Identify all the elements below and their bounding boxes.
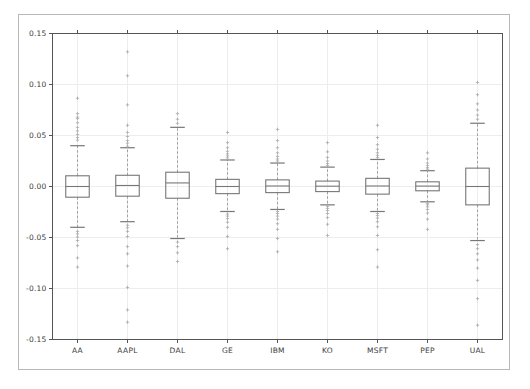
figure-canvas: 0.150.100.050.00-0.05-0.10-0.15 AAAAPLDA… — [0, 0, 530, 389]
y-axis-tick-label: 0.00 — [3, 182, 47, 191]
outlier-marker — [376, 248, 379, 251]
outlier-marker — [376, 216, 379, 219]
outlier-marker — [176, 260, 179, 263]
outlier-marker — [476, 117, 479, 120]
outlier-marker — [276, 228, 279, 231]
outlier-marker — [76, 112, 79, 115]
outlier-marker — [326, 141, 329, 144]
outlier-marker — [426, 161, 429, 164]
outlier-marker — [426, 208, 429, 211]
outlier-marker — [126, 245, 129, 248]
outlier-marker — [176, 245, 179, 248]
outlier-marker — [426, 211, 429, 214]
outlier-marker — [326, 234, 329, 237]
outlier-marker — [376, 124, 379, 127]
outlier-marker — [326, 216, 329, 219]
outlier-marker — [76, 97, 79, 100]
outlier-marker — [476, 93, 479, 96]
outlier-marker — [476, 108, 479, 111]
outlier-marker — [476, 258, 479, 261]
outlier-marker — [276, 222, 279, 225]
outlier-marker — [76, 129, 79, 132]
outlier-marker — [476, 247, 479, 250]
outlier-marker — [376, 220, 379, 223]
outlier-marker — [226, 131, 229, 134]
outlier-marker — [126, 131, 129, 134]
outlier-marker — [76, 121, 79, 124]
outlier-marker — [326, 150, 329, 153]
outlier-marker — [126, 308, 129, 311]
boxplot-chart — [0, 0, 530, 389]
outlier-marker — [376, 234, 379, 237]
outlier-marker — [76, 265, 79, 268]
outlier-marker — [326, 209, 329, 212]
outlier-marker — [176, 117, 179, 120]
outlier-marker — [126, 264, 129, 267]
outlier-marker — [76, 126, 79, 129]
outlier-marker — [226, 221, 229, 224]
outlier-marker — [476, 324, 479, 327]
outlier-marker — [426, 228, 429, 231]
outlier-marker — [176, 251, 179, 254]
outlier-marker — [126, 103, 129, 106]
outlier-marker — [226, 141, 229, 144]
outlier-marker — [326, 159, 329, 162]
outlier-marker — [276, 139, 279, 142]
outlier-marker — [376, 148, 379, 151]
y-axis-tick-label: -0.05 — [3, 233, 47, 242]
outlier-marker — [126, 230, 129, 233]
outlier-marker — [276, 146, 279, 149]
box-plot-group — [416, 151, 440, 231]
outlier-marker — [126, 320, 129, 323]
outlier-marker — [476, 279, 479, 282]
outlier-marker — [276, 151, 279, 154]
outlier-marker — [476, 113, 479, 116]
outlier-marker — [126, 252, 129, 255]
outlier-marker — [476, 243, 479, 246]
outlier-marker — [76, 256, 79, 259]
outlier-marker — [76, 136, 79, 139]
outlier-marker — [476, 252, 479, 255]
outlier-marker — [376, 225, 379, 228]
outlier-marker — [276, 155, 279, 158]
outlier-marker — [426, 151, 429, 154]
outlier-marker — [476, 266, 479, 269]
outlier-marker — [276, 250, 279, 253]
y-axis-tick-label: 0.15 — [3, 29, 47, 38]
outlier-marker — [226, 146, 229, 149]
outlier-marker — [376, 265, 379, 268]
outlier-marker — [326, 156, 329, 159]
y-axis-tick-label: 0.05 — [3, 131, 47, 140]
outlier-marker — [126, 74, 129, 77]
outlier-marker — [176, 112, 179, 115]
outlier-marker — [276, 214, 279, 217]
outlier-marker — [226, 150, 229, 153]
x-axis-tick-label-ual: UAL — [448, 346, 508, 355]
outlier-marker — [476, 297, 479, 300]
outlier-marker — [476, 81, 479, 84]
outlier-marker — [176, 122, 179, 125]
outlier-marker — [326, 223, 329, 226]
outlier-marker — [426, 157, 429, 160]
outlier-marker — [176, 240, 179, 243]
outlier-marker — [76, 244, 79, 247]
outlier-marker — [376, 143, 379, 146]
outlier-marker — [226, 226, 229, 229]
outlier-marker — [476, 102, 479, 105]
outlier-marker — [426, 217, 429, 220]
y-axis-tick-label: 0.10 — [3, 80, 47, 89]
outlier-marker — [76, 239, 79, 242]
outlier-marker — [126, 124, 129, 127]
y-axis-tick-label: -0.10 — [3, 284, 47, 293]
outlier-marker — [76, 235, 79, 238]
outlier-marker — [326, 212, 329, 215]
y-axis-tick-label: -0.15 — [3, 335, 47, 344]
outlier-marker — [126, 50, 129, 53]
outlier-marker — [126, 226, 129, 229]
outlier-marker — [376, 151, 379, 154]
outlier-marker — [76, 232, 79, 235]
outlier-marker — [126, 139, 129, 142]
outlier-marker — [226, 247, 229, 250]
outlier-marker — [226, 217, 229, 220]
outlier-marker — [276, 128, 279, 131]
